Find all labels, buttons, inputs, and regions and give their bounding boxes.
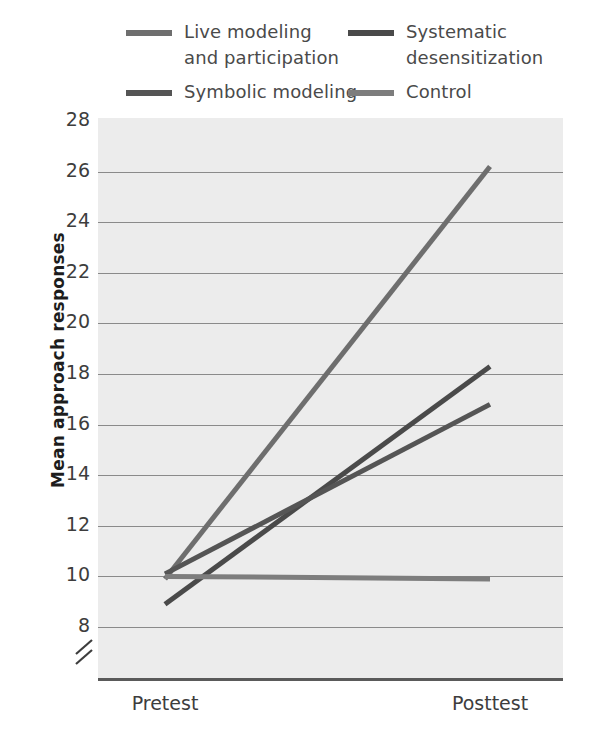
gridline (98, 172, 563, 173)
y-axis-tick-label: 26 (38, 159, 90, 181)
x-axis-tick-label: Posttest (452, 692, 528, 714)
plot-area (98, 118, 563, 681)
gridline (98, 475, 563, 476)
gridline (98, 323, 563, 324)
gridline (98, 273, 563, 274)
line-chart: 282624222018161412108 Mean approach resp… (0, 0, 599, 732)
y-axis-tick-label: 12 (38, 513, 90, 535)
y-axis-tick-label: 10 (38, 563, 90, 585)
x-axis-tick-label: Pretest (132, 692, 199, 714)
y-axis-tick-label: 8 (38, 614, 90, 636)
gridline (98, 222, 563, 223)
gridline (98, 627, 563, 628)
axis-break-icon (72, 638, 102, 668)
gridline (98, 425, 563, 426)
y-axis-tick-label: 28 (38, 108, 90, 130)
y-axis-tick-label: 24 (38, 209, 90, 231)
gridline (98, 374, 563, 375)
gridline (98, 526, 563, 527)
gridline (98, 576, 563, 577)
y-axis-title: Mean approach responses (48, 230, 68, 490)
